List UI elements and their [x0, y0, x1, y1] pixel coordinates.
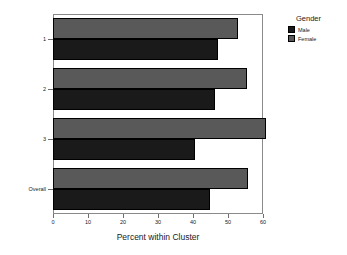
x-axis-tick [228, 214, 229, 218]
legend-item-label: Male [298, 27, 310, 33]
bar-group [53, 18, 263, 60]
y-axis-tick-label: 1 [43, 36, 46, 42]
legend-title: Gender [296, 14, 344, 23]
x-axis-tick [158, 214, 159, 218]
y-axis-tick-label: Overall [29, 186, 46, 192]
x-axis-title: Percent within Cluster [53, 232, 263, 242]
x-axis-tick [123, 214, 124, 218]
x-axis-tick-label: 60 [260, 219, 266, 225]
x-axis-tick-label: 30 [155, 219, 161, 225]
bar-male [53, 189, 210, 210]
bar-group [53, 168, 263, 210]
bar-female [53, 18, 238, 39]
y-axis-tick [48, 89, 53, 90]
x-axis-tick-label: 0 [51, 219, 54, 225]
bar-female [53, 68, 247, 89]
bar-female [53, 118, 266, 139]
bar-male [53, 89, 215, 110]
legend-swatch-icon [288, 35, 295, 42]
x-axis-tick [53, 214, 54, 218]
bar-female [53, 168, 248, 189]
bar-group [53, 118, 263, 160]
x-axis: 0102030405060 [53, 214, 263, 220]
bar-group [53, 68, 263, 110]
x-axis-tick [88, 214, 89, 218]
y-axis-tick [48, 139, 53, 140]
y-axis-tick [48, 189, 53, 190]
bar-male [53, 39, 218, 60]
plot-area [53, 14, 263, 214]
legend-item: Female [288, 35, 344, 42]
y-axis-tick-label: 3 [43, 136, 46, 142]
y-axis: 123Overall [47, 14, 53, 214]
x-axis-tick-label: 10 [85, 219, 91, 225]
y-axis-title-wrapper: Cluster [8, 14, 22, 214]
legend-item-label: Female [298, 36, 316, 42]
x-axis-tick-label: 20 [120, 219, 126, 225]
legend-swatch-icon [288, 26, 295, 33]
bar-male [53, 139, 195, 160]
bar-chart: 123Overall Cluster 0102030405060 Percent… [0, 0, 347, 255]
x-axis-tick-label: 40 [190, 219, 196, 225]
legend-item: Male [288, 26, 344, 33]
x-axis-tick-label: 50 [225, 219, 231, 225]
x-axis-tick [193, 214, 194, 218]
y-axis-tick [48, 39, 53, 40]
x-axis-tick [263, 214, 264, 218]
y-axis-tick-label: 2 [43, 86, 46, 92]
legend: Gender MaleFemale [288, 14, 344, 44]
legend-items: MaleFemale [288, 26, 344, 42]
